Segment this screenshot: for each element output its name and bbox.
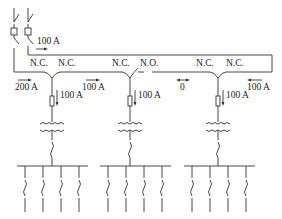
- unit-1-right-switch-label: N.C.: [58, 59, 76, 69]
- unit-1-switches: [44, 72, 60, 78]
- unit-1-left-switch-label: N.C.: [30, 59, 48, 69]
- feeders: [24, 166, 248, 212]
- ring-current-200-label: 200 A: [15, 83, 38, 93]
- unit-3-switches: [210, 72, 226, 78]
- diagram-lines: [0, 0, 282, 219]
- unit-2-tap-current-label: 100 A: [138, 91, 161, 101]
- unit-2-switches: [122, 68, 138, 78]
- unit-1-tap-current-label: 100 A: [60, 91, 83, 101]
- unit-2-left-switch-label: N.C.: [112, 59, 130, 69]
- source-breaker-2: [25, 8, 33, 55]
- source-breaker-1: [11, 8, 19, 72]
- unit-3-right-switch-label: N.C.: [226, 59, 244, 69]
- unit-2-right-switch-label: N.O.: [140, 59, 158, 69]
- ring-current-return-label: 100 A: [247, 83, 270, 93]
- unit-3-left-switch-label: N.C.: [196, 59, 214, 69]
- unit-3-tap-current-label: 100 A: [226, 91, 249, 101]
- ring-main-diagram: 100 A N.C. N.C. 200 A 100 A 100 A N.C. N…: [0, 0, 282, 219]
- ring-current-u2-u3-label: 0: [180, 83, 185, 93]
- ring-current-u1-u2-label: 100 A: [82, 83, 105, 93]
- source-current-label: 100 A: [37, 37, 60, 47]
